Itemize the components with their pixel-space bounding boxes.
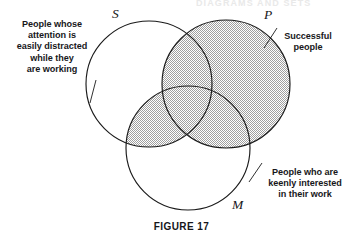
- set-letter-s: S: [112, 6, 119, 22]
- label-set-m: People who are keenly interested in thei…: [260, 167, 350, 201]
- set-letter-p: P: [264, 7, 272, 23]
- figure-caption-wrap: FIGURE 17: [0, 221, 351, 232]
- venn-figure: DIAGRAMS AND SETS People whose attention…: [0, 0, 351, 241]
- label-set-s: People whose attention is easily distrac…: [4, 19, 100, 75]
- leader-line-s: [90, 80, 96, 103]
- label-set-p: Successful people: [268, 31, 348, 53]
- figure-caption: FIGURE 17: [142, 221, 210, 232]
- set-letter-m: M: [232, 197, 243, 213]
